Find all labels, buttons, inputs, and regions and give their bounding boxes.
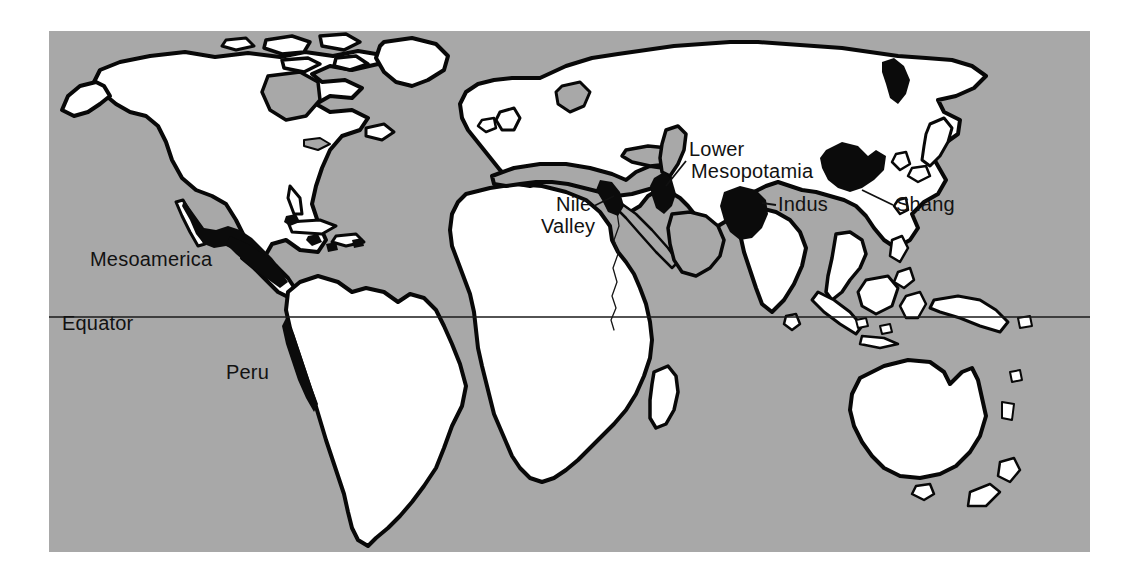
landmass-british-isles <box>496 108 520 130</box>
label-peru: Peru <box>226 361 269 383</box>
label-nile-valley-line2: Valley <box>541 215 595 237</box>
label-lower-mesopotamia-line2: Mesopotamia <box>691 160 814 182</box>
figure-root: Equator Mesoamerica Peru Nile Valley Low… <box>0 0 1136 574</box>
landmass-small-island-5 <box>1002 402 1014 420</box>
label-shang: Shang <box>896 193 955 215</box>
label-nile-valley-line1: Nile <box>556 193 591 215</box>
label-lower-mesopotamia-line1: Lower <box>689 138 745 160</box>
landmass-small-island-4 <box>1010 370 1022 382</box>
label-mesoamerica: Mesoamerica <box>90 248 213 270</box>
landmass-arctic-islands-1 <box>264 36 310 54</box>
world-map: Equator Mesoamerica Peru Nile Valley Low… <box>0 0 1136 574</box>
landmass-small-island-1 <box>856 318 868 328</box>
label-equator: Equator <box>62 312 134 334</box>
landmass-small-island-2 <box>880 324 892 334</box>
label-indus: Indus <box>778 193 828 215</box>
landmass-arctic-islands-5 <box>222 38 254 50</box>
